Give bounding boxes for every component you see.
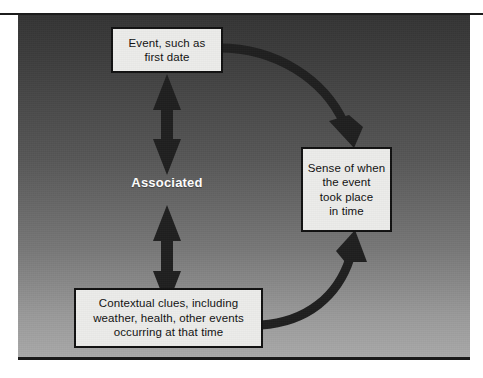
figure-page: Event, such as first date Sense of when …: [0, 0, 483, 378]
arrow-event-associated: [153, 74, 181, 175]
node-event: Event, such as first date: [111, 27, 223, 73]
node-sense-of-when: Sense of when the event took place in ti…: [301, 147, 392, 232]
diagram-panel: Event, such as first date Sense of when …: [18, 15, 470, 360]
arrow-event-to-sense: [219, 48, 363, 148]
arrow-context-to-sense: [261, 230, 367, 325]
node-contextual-clues: Contextual clues, including weather, hea…: [74, 288, 263, 348]
associated-label: Associated: [111, 175, 223, 190]
